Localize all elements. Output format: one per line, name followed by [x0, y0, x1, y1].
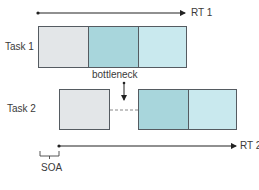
- task2-central-stage: [138, 89, 189, 130]
- bottleneck-label: bottleneck: [92, 69, 138, 80]
- task1-label: Task 1: [5, 41, 34, 52]
- task2-response-stage: [188, 89, 237, 130]
- task1-perception-stage: [38, 26, 89, 68]
- soa-bracket: [40, 151, 59, 159]
- rt2-label: RT 2: [240, 140, 259, 151]
- task1-response-stage: [138, 26, 187, 68]
- rt1-arrow: [36, 11, 185, 14]
- soa-label: SOA: [41, 162, 62, 173]
- rt2-arrow: [57, 144, 236, 147]
- task2-label: Task 2: [7, 103, 36, 114]
- rt1-label: RT 1: [191, 7, 212, 18]
- bottleneck-arrow: [123, 82, 126, 100]
- task1-central-stage: [88, 26, 139, 68]
- task2-perception-stage: [59, 89, 110, 130]
